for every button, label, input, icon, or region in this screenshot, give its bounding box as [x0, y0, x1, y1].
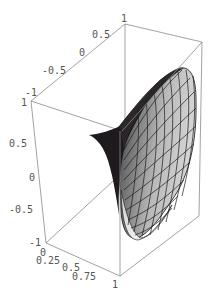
z-tick-label: 1	[21, 97, 27, 108]
x-tick-label: 0.75	[72, 271, 96, 282]
y-tick-label: 0.5	[92, 29, 110, 40]
x-tick-label: 1	[112, 279, 118, 290]
y-axis-ticks: 1 0.5 0 -0.5 -1	[25, 13, 127, 98]
x-axis-ticks: 0 0.25 0.5 0.75 1	[36, 247, 118, 290]
parametric-surface	[89, 68, 196, 240]
x-tick-label: 0.25	[36, 255, 60, 266]
z-tick-label: 0	[29, 172, 35, 183]
y-tick-label: -0.5	[42, 65, 66, 76]
z-axis-ticks: 1 0.5 0 -0.5 -1	[9, 97, 41, 248]
surface-plot: 1 0.5 0 -0.5 -1 1 0.5 0 -0.5 -1 0 0.25 0…	[0, 0, 216, 298]
z-tick-label: 0.5	[9, 138, 27, 149]
z-tick-label: -0.5	[9, 204, 33, 215]
y-tick-label: 1	[121, 13, 127, 24]
y-tick-label: 0	[79, 47, 85, 58]
